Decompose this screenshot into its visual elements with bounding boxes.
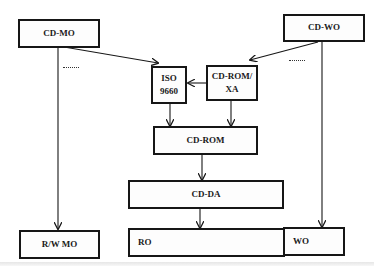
node-cd-da: CD-DA (128, 180, 284, 209)
node-cd-da-label: CD-DA (192, 188, 221, 201)
dotted-annotation-right (289, 60, 305, 61)
node-cd-rom: CD-ROM (153, 126, 258, 155)
page-edge-shadow (0, 262, 374, 266)
node-rw-mo-label: R/W MO (42, 238, 78, 251)
node-cd-rom-label: CD-ROM (187, 134, 225, 147)
node-cd-mo: CD-MO (18, 19, 100, 48)
node-cd-wo: CD-WO (283, 14, 365, 42)
node-ro-label: RO (138, 236, 152, 249)
node-rw-mo: R/W MO (19, 230, 100, 259)
node-cd-mo-label: CD-MO (43, 27, 75, 40)
node-cd-wo-label: CD-WO (308, 21, 340, 34)
node-iso9660-label: ISO 9660 (160, 72, 178, 98)
arrow-cdwo-to-xa (250, 42, 318, 60)
node-cd-rom-xa-label: CD-ROM/ XA (212, 70, 253, 96)
node-ro: RO (128, 228, 285, 257)
node-cd-rom-xa: CD-ROM/ XA (206, 65, 258, 101)
diagram-canvas: CD-MO CD-WO ISO 9660 CD-ROM/ XA CD-ROM C… (0, 0, 374, 273)
node-iso9660: ISO 9660 (151, 66, 187, 104)
arrow-cdmo-to-iso (64, 47, 158, 63)
dotted-annotation-left (63, 67, 79, 68)
node-wo: WO (283, 227, 345, 256)
node-wo-label: WO (293, 235, 309, 248)
